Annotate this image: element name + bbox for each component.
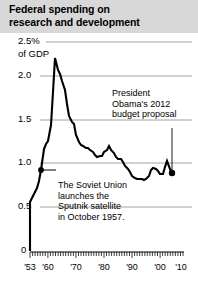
x-tick-label-90: '90 — [123, 262, 141, 272]
x-tick-label-10: '10 — [172, 262, 190, 272]
chart-figure: Federal spending on research and develop… — [0, 0, 198, 281]
y-tick-label-0.5: 0.5 — [18, 200, 31, 211]
x-axis-minor-ticks — [30, 252, 183, 258]
annotation-sputnik-line-4: in October 1957. — [58, 212, 127, 223]
obama-proposal-marker-dot — [169, 170, 175, 176]
x-tick-label-70: '70 — [67, 262, 85, 272]
x-tick-label-00: '00 — [151, 262, 169, 272]
annotation-sputnik-line-1: The Soviet Union — [58, 180, 127, 191]
annotation-obama-line-1: President — [112, 88, 177, 99]
y-tick-label-1.5: 1.5 — [18, 113, 31, 124]
y-tick-label-zero: 0 — [21, 244, 26, 255]
y-tick-label-2.0: 2.0 — [18, 69, 31, 80]
x-tick-label-80: '80 — [95, 262, 113, 272]
x-tick-label-60: '60 — [39, 262, 57, 272]
x-tick-label-53: '53 — [21, 262, 39, 272]
y-tick-label-1.0: 1.0 — [18, 156, 31, 167]
y-tick-label-2.5: 2.5% — [18, 35, 40, 46]
annotation-obama-proposal: President Obama's 2012 budget proposal — [112, 88, 177, 120]
annotation-obama-line-2: Obama's 2012 — [112, 99, 177, 110]
y-unit-label: of GDP — [18, 48, 49, 59]
annotation-obama-line-3: budget proposal — [112, 109, 177, 120]
annotation-sputnik: The Soviet Union launches the Sputnik sa… — [58, 180, 127, 222]
annotation-sputnik-line-3: Sputnik satellite — [58, 201, 127, 212]
annotation-sputnik-line-2: launches the — [58, 191, 127, 202]
